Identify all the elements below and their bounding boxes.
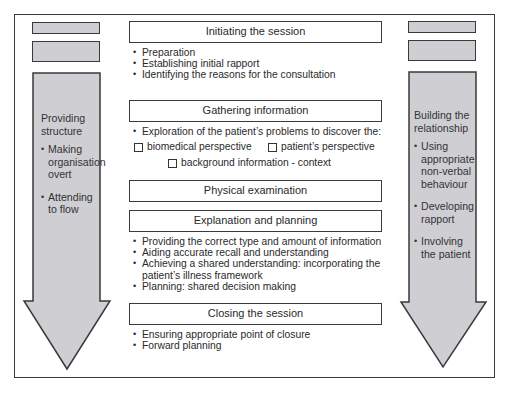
checkbox-background: background information - context — [168, 157, 331, 169]
checkbox-label: biomedical perspective — [147, 141, 252, 153]
list-item: Ensuring appropriate point of closure — [133, 329, 310, 340]
checkbox-patient: patient’s perspective — [268, 141, 375, 153]
checkbox-label: patient’s perspective — [281, 141, 375, 153]
list-item: Establishing initial rapport — [133, 58, 335, 69]
list-item: Preparation — [133, 47, 335, 58]
right-column-text: Building the relationship Using appropri… — [414, 109, 480, 270]
list-item: Identifying the reasons for the consulta… — [133, 69, 335, 80]
stage-closing: Closing the session — [129, 303, 382, 325]
checkbox-label: background information - context — [181, 157, 331, 169]
stage-closing-list: Ensuring appropriate point of closure Fo… — [133, 329, 310, 351]
checkbox-biomedical: biomedical perspective — [134, 141, 252, 153]
list-item: Achieving a shared understanding: incorp… — [133, 258, 393, 280]
right-bullet: Involving the patient — [414, 235, 480, 260]
right-bullet: Developing rapport — [414, 200, 480, 225]
list-item: Providing the correct type and amount of… — [133, 236, 393, 247]
list-item: Aiding accurate recall and understanding — [133, 247, 393, 258]
list-item: Planning: shared decision making — [133, 281, 393, 292]
checkbox-icon — [168, 159, 177, 168]
stage-initiating: Initiating the session — [129, 21, 382, 43]
checkbox-icon — [134, 143, 143, 152]
right-bullet: Using appropriate non-verbal behaviour — [414, 140, 480, 190]
stage-explanation-list: Providing the correct type and amount of… — [133, 236, 393, 292]
right-column-title: Building the relationship — [414, 109, 480, 134]
stage-physical-exam: Physical examination — [129, 180, 382, 202]
stage-initiating-list: Preparation Establishing initial rapport… — [133, 47, 335, 81]
list-item: Forward planning — [133, 340, 310, 351]
stage-gathering-list: Exploration of the patient’s problems to… — [133, 126, 381, 137]
checkbox-icon — [268, 143, 277, 152]
stage-explanation: Explanation and planning — [129, 210, 382, 232]
list-item: Exploration of the patient’s problems to… — [133, 126, 381, 137]
stage-gathering: Gathering information — [129, 100, 382, 122]
